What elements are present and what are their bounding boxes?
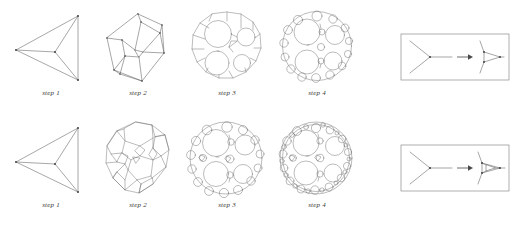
tetrahedron-top-svg <box>8 8 94 88</box>
tetrahedron-bottom-svg <box>8 120 94 200</box>
figure-caption: step 2 <box>129 202 147 209</box>
rule-box-bottom <box>400 144 510 192</box>
figure-caption: step 4 <box>308 90 326 97</box>
right-arrow-icon <box>457 54 473 59</box>
figure-caption: step 1 <box>42 90 60 97</box>
figure-caption: step 2 <box>129 90 147 97</box>
figure-bottom-step-2: step 2 <box>95 118 181 209</box>
twice-truncated-tetrahedron-top-svg <box>185 8 269 88</box>
figure-caption: step 3 <box>218 90 236 97</box>
figure-bottom-step-1: step 1 <box>8 120 94 209</box>
figure-top-step-3: step 3 <box>185 8 269 97</box>
rule-box-border <box>401 34 509 80</box>
vertex-point <box>429 56 431 58</box>
rule-box-bottom-svg <box>400 144 510 192</box>
figure-top-step-2: step 2 <box>98 8 178 97</box>
rule-box-border <box>401 145 509 191</box>
figure-caption: step 4 <box>308 202 326 209</box>
figure-bottom-step-4: step 4 <box>273 118 361 209</box>
figure-caption: step 1 <box>42 202 60 209</box>
vertex-point <box>429 167 431 169</box>
figure-caption: step 3 <box>218 202 236 209</box>
twice-subdivided-tetrahedron-svg <box>183 118 271 200</box>
rhombitruncated-tetrahedron-svg <box>95 118 181 200</box>
truncated-tetrahedron-top-svg <box>98 8 178 88</box>
figure-bottom-step-3: step 3 <box>183 118 271 209</box>
thrice-subdivided-tetrahedron-svg <box>273 118 361 200</box>
figure-top-step-1: step 1 <box>8 8 94 97</box>
thrice-truncated-tetrahedron-top-svg <box>275 8 359 88</box>
rule-box-top <box>400 33 510 81</box>
right-arrow-icon <box>457 165 473 170</box>
rule-box-top-svg <box>400 33 510 81</box>
figure-top-step-4: step 4 <box>275 8 359 97</box>
